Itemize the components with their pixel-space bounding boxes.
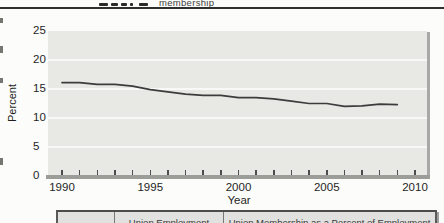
x-tick-label: 1990 — [42, 181, 82, 193]
y-tick-label: 0 — [33, 169, 59, 181]
y-tick-label: 25 — [33, 24, 59, 36]
heading-rule — [0, 7, 444, 9]
table-header-union-employment: Union Employment — [115, 212, 224, 223]
x-tick-label: 2005 — [307, 181, 347, 193]
y-axis-title: Percent — [6, 78, 18, 128]
y-tick-label: 10 — [33, 111, 59, 123]
x-tick-label: 1995 — [130, 181, 170, 193]
union-membership-series-line — [62, 83, 397, 107]
page: { "page": { "heading_fragment": "members… — [0, 0, 444, 223]
illegible-heading-fragment — [99, 0, 159, 7]
plot-area — [48, 31, 427, 176]
clipped-table-header-row: Union Employment Union Membership as a P… — [56, 210, 437, 223]
x-axis-title: Year — [214, 194, 264, 206]
table-header-union-membership-percent: Union Membership as a Percent of Employm… — [224, 212, 435, 223]
data-line-svg — [48, 31, 427, 176]
clipped-page-heading: membership — [0, 0, 444, 7]
x-tick-label: 2010 — [395, 181, 435, 193]
table-header-empty — [58, 212, 115, 223]
x-axis-line — [46, 175, 430, 179]
y-tick-label: 5 — [33, 140, 59, 152]
y-tick-label: 20 — [33, 53, 59, 65]
y-tick-label: 15 — [33, 82, 59, 94]
x-tick-label: 2000 — [219, 181, 259, 193]
union-membership-line-chart: Percent Year 051015202519901995200020052… — [0, 10, 444, 200]
